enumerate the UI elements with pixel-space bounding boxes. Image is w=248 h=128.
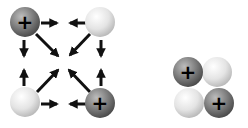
positive-particle: + — [173, 57, 203, 87]
neutral-particle — [202, 57, 232, 87]
arrow-icon — [70, 34, 90, 55]
right-particle-group: + + — [173, 57, 234, 118]
arrow-icon — [36, 34, 58, 56]
neutral-particle — [85, 7, 115, 37]
plus-icon: + — [211, 91, 228, 115]
neutral-particle — [10, 87, 40, 117]
plus-icon: + — [92, 91, 109, 115]
positive-particle: + — [85, 88, 115, 118]
left-particle-group: + + — [10, 7, 115, 118]
arrow-icon — [69, 70, 90, 92]
neutral-particle — [174, 88, 204, 118]
plus-icon: + — [180, 60, 197, 84]
charge-diagram: + + + + — [0, 0, 248, 128]
plus-icon: + — [17, 10, 34, 34]
positive-particle: + — [204, 88, 234, 118]
positive-particle: + — [10, 7, 40, 37]
arrow-icon — [37, 70, 58, 92]
